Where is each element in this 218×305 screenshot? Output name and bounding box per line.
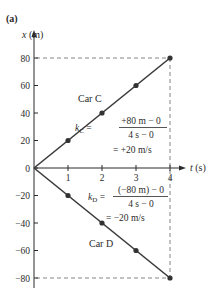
x-axis-variable: t (190, 162, 193, 173)
panel-label: (a) (6, 13, 18, 25)
x-tick-label: 2 (100, 173, 105, 183)
y-tick-label: 0 (25, 164, 30, 174)
x-axis-unit: (s) (195, 162, 206, 174)
car-c-label: Car C (78, 93, 102, 104)
y-tick-label: 20 (21, 136, 31, 146)
car-d-data-point (133, 248, 138, 253)
car-c-denominator: 4 s − 0 (128, 130, 154, 140)
y-tick-label: 40 (21, 109, 31, 119)
car-d-slope-equation: kD = (−80 m) − 0 4 s − 0 = −20 m/s (88, 185, 168, 223)
position-time-chart: (a) x (m) t (s) 806040200−20−40−60−80 12… (0, 0, 218, 305)
y-tick-label: −60 (15, 246, 30, 256)
car-d-data-point (99, 220, 104, 225)
x-axis-arrow-icon (179, 166, 186, 171)
car-d-denominator: 4 s − 0 (128, 199, 154, 209)
x-tick-label: 4 (168, 173, 173, 183)
y-tick-label: −80 (15, 274, 30, 284)
car-c-numerator: +80 m − 0 (121, 116, 161, 126)
car-c-result: = +20 m/s (113, 145, 152, 155)
car-d-slope-symbol: kD = (88, 192, 105, 204)
axes (32, 30, 187, 288)
car-c-slope-equation: kC = +80 m − 0 4 s − 0 = +20 m/s (75, 116, 167, 155)
x-axis-label: t (s) (190, 162, 206, 174)
car-d-data-point (65, 193, 70, 198)
y-axis-unit: (m) (29, 29, 43, 41)
y-tick-label: −40 (15, 219, 30, 229)
y-tick-label: 60 (21, 81, 31, 91)
car-d-data-point (167, 275, 172, 280)
car-c-data-point (99, 110, 104, 115)
y-axis-variable: x (21, 29, 27, 40)
car-d-result: = −20 m/s (106, 213, 145, 223)
car-c-data-point (65, 138, 70, 143)
car-c-data-point (167, 55, 172, 60)
y-axis-label: x (m) (21, 29, 43, 41)
y-tick-label: −20 (15, 191, 30, 201)
car-c-data-point (133, 83, 138, 88)
x-tick-label: 1 (66, 173, 71, 183)
x-tick-label: 3 (134, 173, 139, 183)
car-d-label: Car D (89, 238, 113, 249)
car-d-numerator: (−80 m) − 0 (118, 185, 164, 196)
y-tick-label: 80 (21, 54, 31, 64)
